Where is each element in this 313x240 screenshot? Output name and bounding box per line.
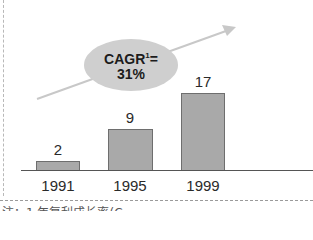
x-tick-label: 1991: [28, 177, 88, 194]
footnote: 注：1 年复利成长率(C: [2, 203, 123, 211]
x-tick-label: 1995: [100, 177, 160, 194]
cagr-bubble: CAGR1= 31%: [84, 39, 178, 91]
footnote-divider: [0, 200, 313, 201]
cagr-value: 31%: [117, 66, 145, 82]
bar-1999: [181, 93, 225, 171]
cagr-line1: CAGR1=: [104, 48, 158, 67]
x-tick-label: 1999: [173, 177, 233, 194]
bar-value-label: 2: [33, 141, 83, 158]
bar-value-label: 17: [178, 73, 228, 90]
bar-value-label: 9: [105, 109, 155, 126]
bar-1995: [108, 129, 153, 171]
x-axis-line: [21, 170, 313, 171]
